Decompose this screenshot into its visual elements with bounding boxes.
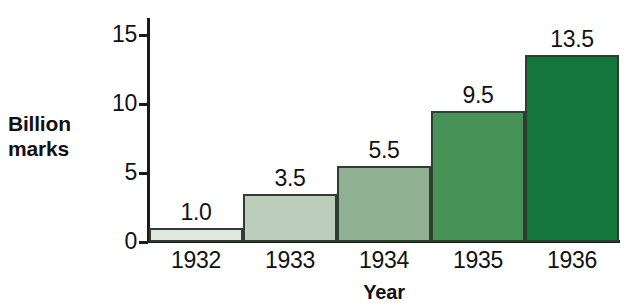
x-axis-tick-label: 1934 [337,249,431,272]
bar [337,166,431,242]
bar-value-label: 3.5 [243,167,337,190]
y-axis-tick-label: 5 [93,161,137,184]
bar-value-label: 5.5 [337,139,431,162]
x-axis-title: Year [149,282,619,302]
bar [243,194,337,242]
y-axis-tick-label: 15 [93,23,137,46]
y-axis-tick [139,34,148,37]
bar-value-label: 9.5 [431,84,525,107]
bar [149,228,243,242]
bar [431,111,525,242]
y-axis-tick-label: 0 [93,230,137,253]
y-axis-title: Billion marks [8,112,104,162]
x-axis-tick-label: 1936 [525,249,619,272]
x-axis-tick-label: 1935 [431,249,525,272]
y-axis-tick-label: 10 [93,92,137,115]
y-axis-tick [139,241,148,244]
bar-value-label: 13.5 [525,28,619,51]
bar [525,55,619,242]
bar-chart: Billion marks 051015 1.03.55.59.513.5 19… [0,0,629,307]
y-axis-tick [139,103,148,106]
x-axis-tick-label: 1933 [243,249,337,272]
x-axis-tick-label: 1932 [149,249,243,272]
y-axis-tick [139,172,148,175]
bar-value-label: 1.0 [149,201,243,224]
